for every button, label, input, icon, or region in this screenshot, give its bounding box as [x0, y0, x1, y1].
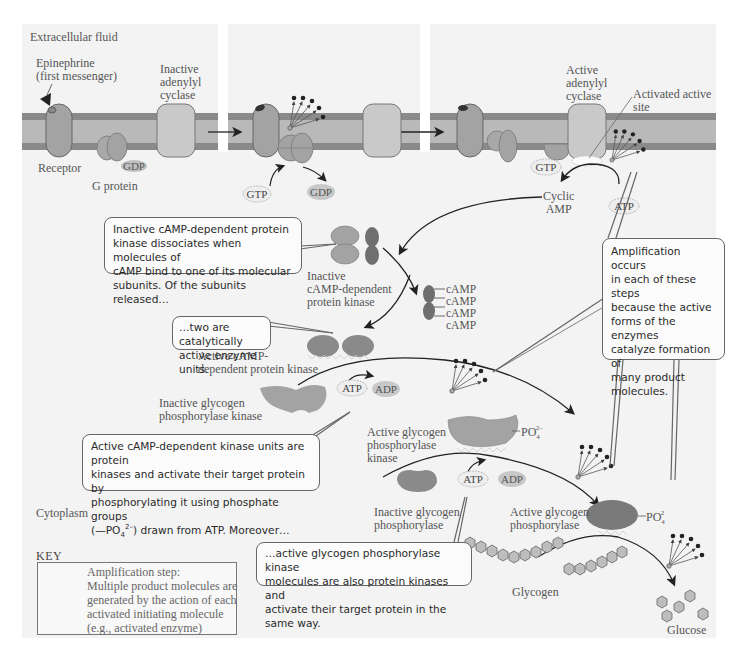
- label-g-protein: G protein: [92, 180, 138, 193]
- label-glucose: Glucose: [667, 624, 706, 637]
- inactive-adenylyl-cyclase-icon: [363, 104, 401, 157]
- adp-molecule-icon: ADP: [498, 471, 526, 487]
- atp-molecule-icon: ATP: [458, 471, 488, 487]
- inactive-pka-icon: [331, 226, 379, 265]
- po4-label: PO42–: [521, 424, 543, 441]
- receptor-bound-icon: [457, 104, 483, 157]
- callout-pka-dissociation: Inactive cAMP-dependent protein kinase d…: [104, 217, 302, 274]
- active-adenylyl-cyclase-icon: [568, 104, 606, 159]
- epinephrine-icon: [40, 84, 52, 106]
- inactive-adenylyl-cyclase-icon: [157, 104, 195, 157]
- g-protein-activating-icon: [278, 133, 313, 163]
- label-active-adenylyl-cyclase: Active adenylyl cyclase: [566, 64, 607, 103]
- active-gp-icon: [586, 500, 638, 530]
- svg-text:ADP: ADP: [501, 473, 523, 485]
- callout-two-active-units: …two are catalytically active enzyme uni…: [172, 316, 271, 350]
- glucose-molecules-icon: [657, 590, 708, 622]
- signal-transduction-figure: GDP GTP GDP: [0, 0, 736, 661]
- amplification-fan-icon: [667, 534, 705, 569]
- label-camp-list: cAMP cAMP cAMP cAMP: [446, 283, 476, 331]
- adp-molecule-icon: ADP: [372, 381, 400, 397]
- svg-text:GTP: GTP: [247, 188, 268, 200]
- label-inactive-gp: Inactive glycogen phosphorylase: [374, 506, 460, 532]
- glycogen-chain-icon: [465, 537, 627, 575]
- g-protein-beta-gamma-icon: [487, 130, 517, 162]
- region-label-extracellular: Extracellular fluid: [30, 31, 118, 44]
- svg-text:ADP: ADP: [375, 383, 397, 395]
- callout-kinase-units: Active cAMP-dependent kinase units are p…: [82, 434, 320, 491]
- inactive-gpk-icon: [260, 385, 326, 413]
- label-activated-active-site: Activated active site: [633, 88, 711, 114]
- label-inactive-adenylyl-cyclase: Inactive adenylyl cyclase: [160, 63, 201, 102]
- svg-text:GDP: GDP: [123, 160, 145, 172]
- region-label-cytoplasm: Cytoplasm: [36, 507, 88, 520]
- label-active-gp: Active glycogen phosphorylase: [510, 506, 589, 532]
- label-glycogen: Glycogen: [512, 586, 559, 599]
- label-receptor: Receptor: [38, 162, 81, 175]
- active-gpk-icon: [448, 415, 518, 447]
- label-cyclic-amp: Cyclic AMP: [543, 190, 574, 216]
- key-description: Amplification step: Multiple product mol…: [87, 565, 237, 635]
- atp-molecule-icon: ATP: [337, 380, 367, 396]
- svg-text:ATP: ATP: [463, 473, 483, 485]
- svg-text:ATP: ATP: [342, 382, 362, 394]
- svg-text:GDP: GDP: [310, 186, 332, 198]
- label-inactive-gpk: Inactive glycogen phosphorylase kinase: [159, 397, 262, 423]
- gtp-molecule-icon: GTP: [243, 186, 271, 202]
- receptor-icon: [46, 104, 72, 157]
- inactive-gp-icon: [397, 470, 437, 492]
- receptor-bound-icon: [253, 103, 279, 157]
- camp-bound-regulatory-icon: [423, 285, 445, 320]
- label-active-gpk: Active glycogen phosphorylase kinase: [367, 426, 446, 465]
- amplification-fan-icon: [576, 445, 614, 480]
- label-inactive-pka: Inactive cAMP-dependent protein kinase: [307, 270, 392, 309]
- svg-text:GTP: GTP: [536, 161, 557, 173]
- gdp-molecule-icon: GDP: [307, 184, 335, 200]
- callout-amplification: Amplification occurs in each of these st…: [602, 238, 725, 360]
- label-epinephrine: Epinephrine (first messenger): [36, 57, 117, 83]
- po4-label: PO42: [646, 509, 665, 526]
- callout-also-kinases: …active glycogen phosphorylase kinase mo…: [256, 542, 472, 586]
